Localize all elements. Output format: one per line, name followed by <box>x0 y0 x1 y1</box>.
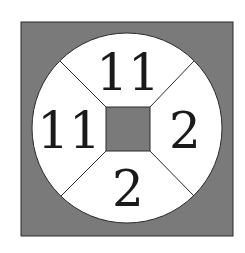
segment-top-value: 11 <box>96 44 160 102</box>
segment-left-value: 11 <box>37 102 101 160</box>
segment-bottom-value: 2 <box>112 160 144 218</box>
puzzle-diagram: 11 11 2 2 <box>0 0 245 253</box>
center-square <box>106 107 150 151</box>
segment-right-value: 2 <box>169 102 201 160</box>
